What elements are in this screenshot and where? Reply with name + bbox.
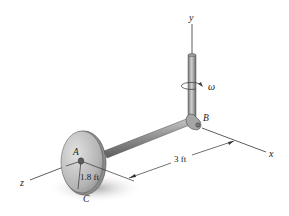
disk-hub [78,158,84,164]
point-c-label: C [83,194,90,204]
dimension-arrow-left-icon [129,174,136,178]
shaft-top-cap [188,53,196,56]
vertical-shaft [188,55,196,121]
rod-dimension-line-right [192,141,234,155]
y-axis-label: y [188,12,194,23]
rotating-disk-diagram: y x z ω B A 1.8 ft C 3 ft [0,0,289,216]
z-axis-label: z [19,177,24,188]
x-axis-label: x [268,148,274,159]
dimension-arrow-right-icon [228,141,234,145]
point-a-label: A [72,147,79,157]
radius-dimension-label: 1.8 ft [80,172,99,182]
rod-length-label: 3 ft [174,154,187,164]
rotation-arrowhead-icon [198,82,203,87]
omega-label: ω [208,81,215,92]
horizontal-rod [104,118,192,158]
joint-pin [196,123,200,127]
joint-b [186,114,201,130]
point-b-label: B [203,113,209,123]
